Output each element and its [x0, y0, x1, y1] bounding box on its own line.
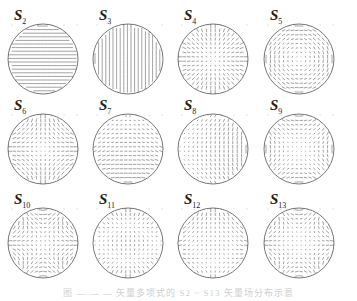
panel-s10: S10 — [0, 186, 86, 281]
panel-s12: S12 — [170, 186, 256, 281]
vector-field-quad — [170, 186, 256, 281]
vector-field-tilt-y — [170, 92, 256, 187]
panel-s11: S11 — [85, 186, 171, 281]
vector-field-trefoil — [0, 186, 86, 281]
vector-field-horizontal — [0, 2, 86, 97]
panel-s4: S4 — [170, 2, 256, 97]
figure-caption: 图 — — — 矢量多项式的 S2 ~ S13 矢量场分布示意 — [0, 286, 357, 299]
panel-s13: S13 — [256, 186, 342, 281]
panel-s8: S8 — [170, 92, 256, 187]
panel-s2: S2 — [0, 2, 86, 97]
panel-s6: S6 — [0, 92, 86, 187]
vector-field-tilt-x — [85, 92, 171, 187]
vector-field-radial — [170, 2, 256, 97]
vector-field-rotational — [256, 2, 342, 97]
vector-field-coma — [85, 186, 171, 281]
panel-s5: S5 — [256, 2, 342, 97]
vector-field-astig — [256, 92, 342, 187]
panel-s9: S9 — [256, 92, 342, 187]
vector-field-vertical — [85, 2, 171, 97]
panel-s3: S3 — [85, 2, 171, 97]
vector-field-saddle — [0, 92, 86, 187]
panel-s7: S7 — [85, 92, 171, 187]
vector-field-diag — [256, 186, 342, 281]
